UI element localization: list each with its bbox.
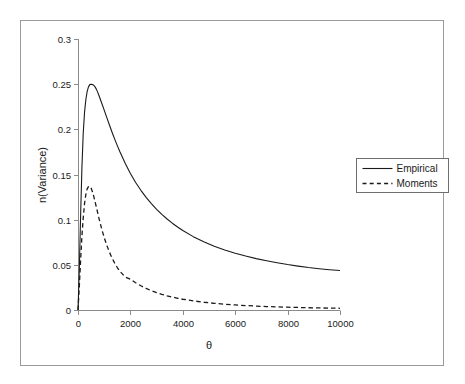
x-axis-tick-label: 10000 (327, 318, 353, 329)
y-axis-tick-label: 0.2 (58, 124, 71, 135)
x-axis-tick-label: 2000 (120, 318, 141, 329)
x-axis-tick-label: 0 (76, 318, 81, 329)
y-axis-tick-label: 0.15 (53, 170, 72, 181)
chart-legend[interactable]: EmpiricalMoments (357, 159, 449, 193)
y-axis-tick-label: 0.25 (53, 79, 72, 90)
legend-label-empirical: Empirical (397, 163, 438, 174)
y-axis-title: n(Variance) (36, 147, 48, 203)
chart-figure: 00.050.10.150.20.250.3 02000400060008000… (0, 0, 465, 384)
y-axis-tick-label: 0.05 (53, 260, 72, 271)
y-axis-tick-label: 0.3 (58, 34, 71, 45)
y-axis-tick-label: 0.1 (58, 215, 71, 226)
x-axis-title: θ (206, 339, 212, 351)
legend-label-moments: Moments (397, 178, 438, 189)
chart-canvas: 00.050.10.150.20.250.3 02000400060008000… (0, 0, 465, 384)
y-axis-tick-label: 0 (66, 305, 71, 316)
x-axis-tick-label: 4000 (173, 318, 194, 329)
x-axis-tick-label: 6000 (225, 318, 246, 329)
x-axis-tick-label: 8000 (278, 318, 299, 329)
